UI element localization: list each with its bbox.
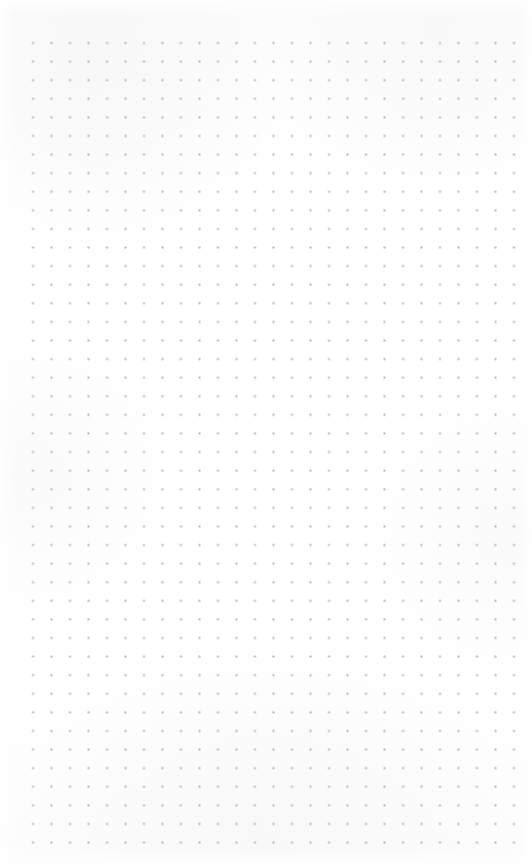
page-edge-shading (0, 0, 532, 864)
dot-grid-page (0, 0, 532, 864)
dot-grid-layer (0, 0, 532, 864)
paper-texture-layer (0, 0, 532, 864)
